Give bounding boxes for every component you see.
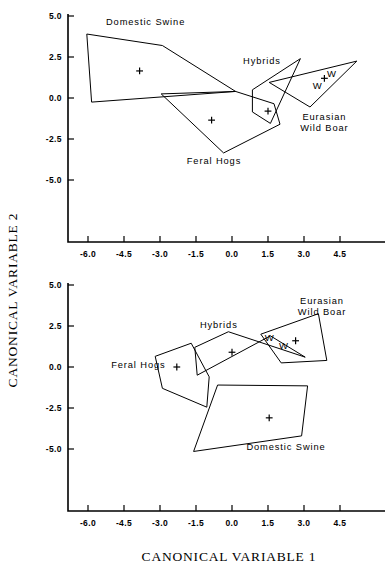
group-label: Feral Hogs [111, 360, 165, 370]
point-label-w: W [327, 68, 336, 79]
centroid-marker [229, 349, 236, 356]
group-hybrids: Hybrids [195, 320, 305, 375]
group-eurasian-wild-boar: WWEurasianWild Boar [261, 296, 346, 363]
xtick-label: -1.5 [188, 518, 204, 528]
centroid-marker [265, 108, 272, 115]
xtick-label: 0.0 [225, 518, 238, 528]
group-hybrids: Hybrids [243, 56, 300, 123]
group-feral-hogs: Feral Hogs [161, 91, 280, 166]
group-label: Hybrids [200, 320, 238, 330]
group-domestic-swine: Domestic Swine [87, 17, 236, 102]
centroid-marker [208, 117, 215, 124]
top-panel: 5.0 2.5 0.0 -2.5 -5.0 -6.0 -4.5 -3.0 [46, 11, 385, 259]
bottom-panel-x-ticklabels: -6.0 -4.5 -3.0 -1.5 0.0 1.5 3.0 4.5 [80, 518, 347, 528]
centroid-marker [266, 414, 273, 421]
ytick-label: 2.5 [49, 321, 62, 331]
group-label: Domestic Swine [246, 442, 325, 452]
group-label: EurasianWild Boar [298, 296, 346, 317]
xtick-label: 0.0 [225, 249, 238, 259]
convex-hull [161, 91, 280, 153]
point-label-w: W [313, 80, 322, 91]
centroid-marker [136, 68, 143, 75]
ytick-label: 2.5 [49, 52, 62, 62]
ytick-label: 5.0 [49, 11, 62, 21]
xtick-label: -6.0 [80, 518, 96, 528]
bottom-panel-x-ticks [88, 505, 340, 511]
xtick-label: 3.0 [297, 518, 310, 528]
xtick-label: 1.5 [261, 249, 274, 259]
bottom-panel-y-ticks [68, 285, 74, 449]
group-label: EurasianWild Boar [300, 112, 348, 133]
group-label: Domestic Swine [106, 17, 185, 27]
group-domestic-swine: Domestic Swine [194, 385, 326, 452]
xtick-label: -3.0 [152, 249, 168, 259]
xtick-label: 4.5 [333, 249, 346, 259]
top-panel-x-ticks [88, 236, 340, 242]
xtick-label: -4.5 [116, 249, 132, 259]
group-label: Feral Hogs [187, 156, 241, 166]
group-feral-hogs: Feral Hogs [111, 343, 209, 407]
centroid-marker [173, 364, 180, 371]
x-axis-title: CANONICAL VARIABLE 1 [142, 549, 317, 564]
convex-hull [195, 332, 305, 375]
centroid-marker [292, 337, 299, 344]
ytick-label: 0.0 [49, 362, 62, 372]
ytick-label: -5.0 [46, 444, 62, 454]
figure-canvas: 5.0 2.5 0.0 -2.5 -5.0 -6.0 -4.5 -3.0 [0, 0, 390, 580]
bottom-panel-data-layer: Feral HogsHybridsWWEurasianWild BoarDome… [111, 296, 346, 452]
top-panel-x-ticklabels: -6.0 -4.5 -3.0 -1.5 0.0 1.5 3.0 4.5 [80, 249, 347, 259]
xtick-label: 1.5 [261, 518, 274, 528]
xtick-label: 4.5 [333, 518, 346, 528]
xtick-label: -1.5 [188, 249, 204, 259]
bottom-panel: 5.0 2.5 0.0 -2.5 -5.0 -6.0 -4.5 -3.0 [46, 280, 385, 528]
y-axis-title: CANONICAL VARIABLE 2 [5, 213, 20, 388]
bottom-panel-axis-lines [68, 283, 385, 511]
bottom-panel-y-ticklabels: 5.0 2.5 0.0 -2.5 -5.0 [46, 280, 62, 454]
xtick-label: -6.0 [80, 249, 96, 259]
xtick-label: -4.5 [116, 518, 132, 528]
point-label-w: W [279, 340, 288, 351]
ytick-label: 5.0 [49, 280, 62, 290]
point-label-w: W [265, 332, 274, 343]
ytick-label: -2.5 [46, 134, 62, 144]
top-panel-y-ticks [68, 16, 74, 180]
canonical-variate-figure: 5.0 2.5 0.0 -2.5 -5.0 -6.0 -4.5 -3.0 [0, 0, 390, 580]
ytick-label: -2.5 [46, 403, 62, 413]
xtick-label: -3.0 [152, 518, 168, 528]
convex-hull [155, 343, 209, 407]
top-panel-data-layer: Domestic SwineFeral HogsHybridsWWEurasia… [87, 17, 357, 166]
ytick-label: 0.0 [49, 93, 62, 103]
top-panel-y-ticklabels: 5.0 2.5 0.0 -2.5 -5.0 [46, 11, 62, 185]
group-label: Hybrids [243, 56, 281, 66]
xtick-label: 3.0 [297, 249, 310, 259]
ytick-label: -5.0 [46, 175, 62, 185]
